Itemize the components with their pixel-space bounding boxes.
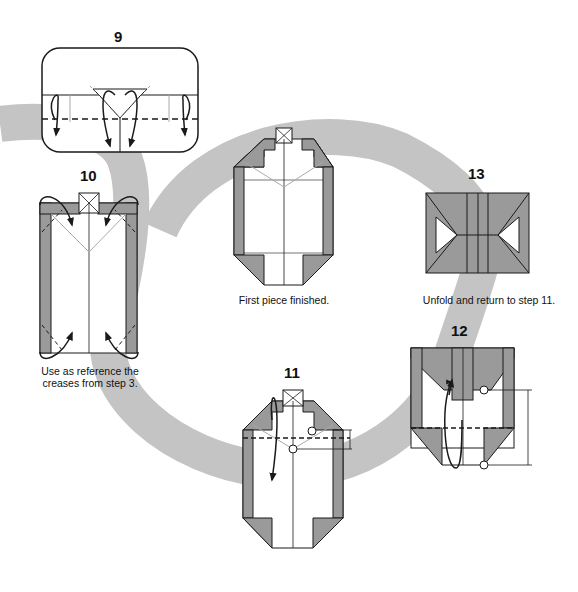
- step-10-number: 10: [80, 167, 97, 184]
- step-10-caption-line-1: Use as reference the: [20, 365, 160, 377]
- step-9-diagram: [42, 48, 198, 152]
- step-10-caption-line-2: creases from step 3.: [20, 377, 160, 389]
- step-13-diagram: [426, 193, 529, 273]
- step-13-caption: Unfold and return to step 11.: [400, 294, 578, 306]
- step-12-diagram: [411, 348, 532, 469]
- step-10-diagram: [40, 193, 138, 358]
- step-13-number: 13: [468, 165, 485, 182]
- finished-piece-caption: First piece finished.: [224, 294, 344, 306]
- step-11-number: 11: [284, 364, 300, 381]
- step-10-caption: Use as reference the creases from step 3…: [20, 365, 160, 389]
- step-12-number: 12: [451, 322, 468, 339]
- step-11-diagram: [243, 390, 352, 548]
- step-9-number: 9: [114, 28, 122, 45]
